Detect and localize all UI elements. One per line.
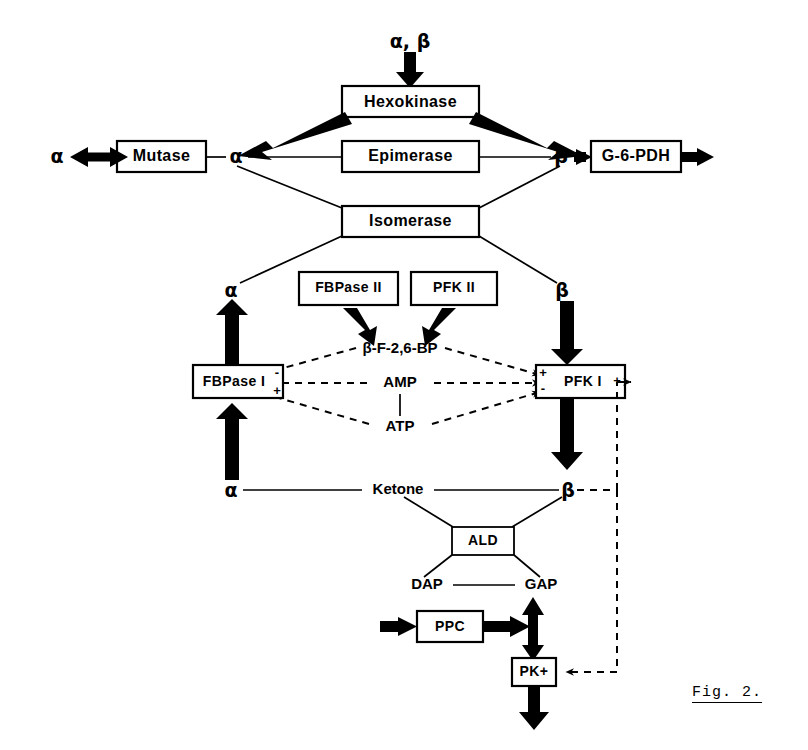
arrow-pfk1-to-beta-lower (551, 398, 583, 470)
node-hexokinase-label: Hexokinase (364, 93, 457, 110)
node-pfk2-label: PFK II (433, 279, 475, 295)
node-pk-label: PK+ (520, 663, 549, 679)
figure-caption: Fig. 2. (692, 684, 762, 703)
metabolite-amp-label: AMP (383, 373, 416, 390)
input-metabolite-label: α, β (390, 30, 431, 52)
line-ketone-ald-left (404, 497, 453, 527)
node-g6pdh-label: G-6-PDH (602, 147, 671, 164)
node-epimerase: Epimerase (342, 141, 479, 172)
node-fbpase2: FBPase II (299, 272, 398, 305)
node-fbpase2-label: FBPase II (315, 279, 382, 295)
node-pk: PK+ (512, 658, 556, 686)
input-label-group: α, β (390, 30, 431, 52)
node-fbpase1-label: FBPase I (203, 373, 265, 389)
node-isomerase-label: Isomerase (369, 212, 452, 229)
node-pfk1-label: PFK I (564, 373, 602, 389)
metabolite-atp-label: ATP (386, 417, 415, 434)
pathway-diagram: α, β Hexokinase α β Epimerase Mutase α (0, 0, 808, 750)
dashed-regulatory-right-fan (432, 348, 540, 424)
metabolite-beta-ketone-row: β (561, 479, 575, 501)
arrow-g6pdh-output (681, 148, 714, 166)
pfk1-plus-sign-right: + (613, 373, 621, 388)
node-ald: ALD (452, 527, 514, 555)
line-ald-gap (514, 555, 540, 577)
metabolite-fbp26-label: β-F-2,6-BP (363, 339, 438, 356)
line-beta-ald-right (512, 497, 562, 527)
pathway-svg: α, β Hexokinase α β Epimerase Mutase α (0, 0, 808, 750)
node-epimerase-label: Epimerase (368, 147, 453, 164)
arrow-alpha-lower-to-fbpase1 (216, 403, 248, 480)
arrow-ppc-to-gap (483, 616, 530, 637)
line-ald-dap (424, 555, 452, 577)
metabolite-alpha-row2: α (229, 145, 242, 167)
line-beta-isomerase (479, 166, 560, 208)
node-ald-label: ALD (468, 532, 498, 548)
line-alpha-isomerase (237, 166, 342, 208)
node-g6pdh: G-6-PDH (591, 141, 681, 172)
arrow-hexokinase-to-alpha (238, 112, 352, 160)
pfk1-minus-sign-left: - (541, 381, 545, 396)
node-ppc-label: PPC (435, 618, 465, 634)
arrow-beta-to-g6pdh (574, 149, 592, 165)
arrow-beta-to-pfk1 (551, 301, 583, 365)
pfk1-plus-sign-left: + (539, 365, 547, 380)
metabolite-beta-row2: β (554, 145, 568, 167)
metabolite-gap-label: GAP (525, 575, 558, 592)
node-fbpase1: FBPase I - + (193, 365, 283, 398)
arrow-fbpase1-to-alpha (216, 299, 248, 365)
arrow-input-to-hexokinase (396, 52, 424, 88)
metabolite-alpha-ketone-row: α (224, 479, 237, 501)
node-ppc: PPC (417, 611, 483, 642)
metabolite-ketone-label: Ketone (373, 480, 424, 497)
dashed-feedback-beta-to-pk (566, 490, 617, 672)
metabolite-beta-row4: β (555, 279, 569, 301)
arrow-pk-output (519, 686, 549, 730)
metabolite-dap-label: DAP (411, 575, 443, 592)
fbpase1-minus-sign: - (275, 365, 279, 380)
node-pfk2: PFK II (411, 272, 497, 305)
node-mutase-label: Mutase (133, 147, 191, 164)
fbpase1-plus-sign: + (273, 383, 281, 398)
node-hexokinase: Hexokinase (342, 86, 479, 117)
metabolite-alpha-row4: α (224, 279, 237, 301)
arrow-ppc-input (380, 617, 417, 636)
metabolite-alpha-far-left: α (50, 145, 63, 167)
node-pfk1: PFK I + - + (536, 365, 625, 398)
node-isomerase: Isomerase (342, 206, 479, 237)
node-mutase: Mutase (117, 141, 206, 172)
arrow-gap-pk-bidirectional (522, 597, 544, 661)
